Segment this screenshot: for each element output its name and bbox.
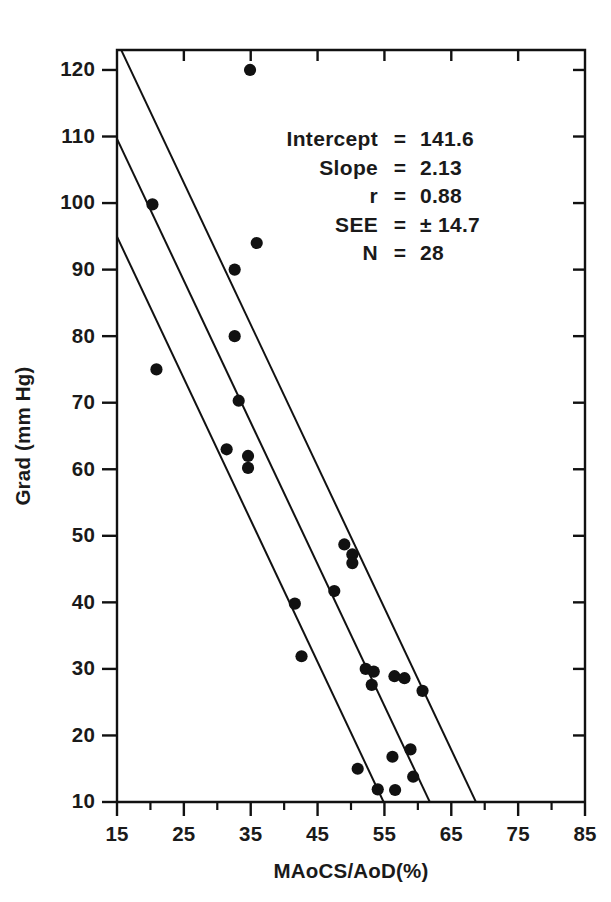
- annotation-key: N: [363, 241, 378, 264]
- y-tick-label: 110: [61, 124, 95, 147]
- data-point: [295, 650, 307, 662]
- x-tick-label: 35: [239, 822, 262, 845]
- x-axis-tick-labels: 1525354555657585: [105, 822, 596, 845]
- y-tick-label: 120: [60, 57, 95, 80]
- data-point: [244, 64, 256, 76]
- data-point: [416, 685, 428, 697]
- data-point: [346, 557, 358, 569]
- data-point: [251, 237, 263, 249]
- x-tick-label: 65: [440, 822, 463, 845]
- data-point: [328, 585, 340, 597]
- data-point: [242, 462, 254, 474]
- data-point: [233, 395, 245, 407]
- y-axis-tick-labels: 102030405060708090100110120: [60, 57, 95, 812]
- y-axis-ticks: [102, 70, 585, 802]
- data-point: [366, 679, 378, 691]
- y-tick-label: 40: [72, 590, 95, 613]
- data-point: [404, 743, 416, 755]
- annotation-equals: =: [394, 127, 407, 150]
- data-point: [146, 198, 158, 210]
- annotation-key: SEE: [335, 213, 378, 236]
- data-point: [386, 751, 398, 763]
- y-tick-label: 90: [72, 257, 95, 280]
- x-tick-label: 75: [507, 822, 530, 845]
- annotation-key: r: [370, 184, 378, 207]
- y-axis-title: Grad (mm Hg): [11, 366, 34, 505]
- annotation-value: 141.6: [420, 127, 474, 150]
- y-tick-label: 30: [72, 656, 95, 679]
- data-point: [389, 784, 401, 796]
- data-point: [289, 598, 301, 610]
- y-tick-label: 70: [72, 390, 95, 413]
- x-axis-title: MAoCS/AoD(%): [274, 859, 429, 882]
- x-tick-label: 55: [373, 822, 396, 845]
- annotation-value: 2.13: [420, 156, 462, 179]
- x-tick-label: 15: [105, 822, 128, 845]
- data-point: [338, 538, 350, 550]
- y-tick-label: 80: [72, 324, 95, 347]
- data-point: [221, 443, 233, 455]
- annotation-equals: =: [394, 241, 407, 264]
- x-tick-label: 25: [172, 822, 195, 845]
- annotation-value: 28: [420, 241, 444, 264]
- y-tick-label: 20: [72, 723, 95, 746]
- annotation-value: 0.88: [420, 184, 462, 207]
- annotation-equals: =: [394, 184, 407, 207]
- data-point: [229, 330, 241, 342]
- y-tick-label: 10: [72, 789, 95, 812]
- data-point: [242, 450, 254, 462]
- annotation-value: ± 14.7: [420, 213, 480, 236]
- scatter-plot-figure: 1525354555657585 10203040506070809010011…: [0, 0, 611, 902]
- data-point: [398, 672, 410, 684]
- regression-fit: [117, 139, 430, 802]
- annotation-key: Intercept: [287, 127, 378, 150]
- y-tick-label: 60: [72, 457, 95, 480]
- data-point: [368, 665, 380, 677]
- statistics-annotation: Intercept=141.6Slope=2.13r=0.88SEE=± 14.…: [287, 127, 480, 264]
- x-tick-label: 85: [573, 822, 596, 845]
- data-point: [407, 771, 419, 783]
- y-tick-label: 100: [60, 190, 95, 213]
- annotation-equals: =: [394, 213, 407, 236]
- annotation-equals: =: [394, 156, 407, 179]
- plot-canvas: 1525354555657585 10203040506070809010011…: [0, 0, 611, 902]
- data-point: [150, 363, 162, 375]
- x-tick-label: 45: [306, 822, 329, 845]
- annotation-key: Slope: [319, 156, 378, 179]
- data-point: [352, 763, 364, 775]
- data-point: [229, 264, 241, 276]
- data-point: [372, 783, 384, 795]
- y-tick-label: 50: [72, 523, 95, 546]
- data-points: [146, 64, 428, 796]
